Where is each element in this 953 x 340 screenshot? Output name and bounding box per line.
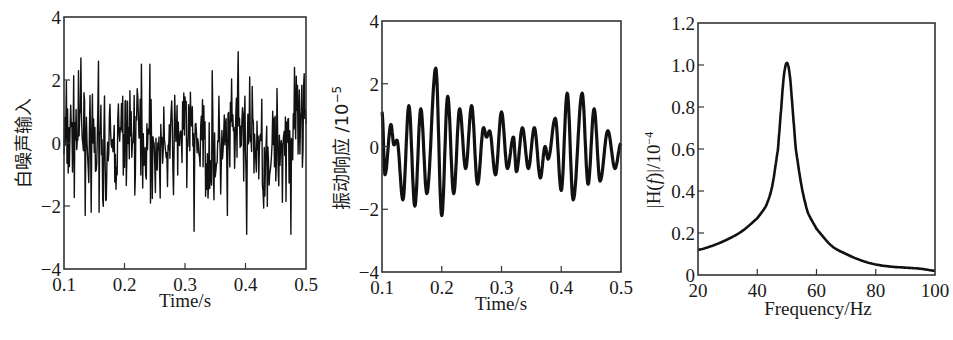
series-line	[382, 68, 621, 215]
y-axis-title: 振动响应 /10−5	[330, 86, 352, 210]
x-tick-label: 0.2	[113, 274, 137, 295]
figure-canvas: 0.10.20.30.40.5−4−2024 Time/s 白噪声输入 0.10…	[0, 0, 953, 340]
y-tick-label: 4	[52, 7, 62, 28]
y-axis-title: 白噪声输入	[13, 98, 34, 188]
y-tick-label: 0.2	[671, 223, 695, 244]
y-tick-label: 0.6	[671, 139, 695, 160]
y-axis-title: |H(f)|/10−4	[642, 132, 665, 208]
white-noise-chart: 0.10.20.30.40.5−4−2024 Time/s 白噪声输入	[13, 7, 318, 311]
y-tick-label: 0	[370, 137, 380, 158]
y-tick-label: −4	[359, 262, 380, 283]
y-tick-label: 4	[370, 11, 380, 32]
svg-text:振动响应 /10−5: 振动响应 /10−5	[330, 86, 352, 210]
vibration-response-chart: 0.10.20.30.40.5−4−2024 Time/s 振动响应 /10−5	[330, 11, 633, 314]
svg-text:|H(f)|/10−4: |H(f)|/10−4	[642, 132, 665, 208]
x-tick-label: 100	[921, 280, 950, 301]
y-tick-label: 0	[52, 133, 62, 154]
y-tick-label: −2	[41, 196, 61, 217]
x-axis-title: Time/s	[159, 290, 211, 311]
frequency-response-chart: 2040608010000.20.40.60.81.01.2 Frequency…	[642, 13, 949, 319]
y-tick-label: 2	[52, 70, 62, 91]
x-axis-title: Frequency/Hz	[764, 298, 872, 319]
y-tick-label: 0	[686, 265, 696, 286]
y-tick-label: −2	[359, 199, 379, 220]
x-tick-label: 0.4	[549, 277, 573, 298]
x-tick-label: 0.4	[234, 274, 258, 295]
series-line	[698, 63, 935, 271]
axis-ticks: 2040608010000.20.40.60.81.01.2	[671, 13, 949, 301]
y-tick-label: 0.4	[671, 181, 695, 202]
y-axis-exponent: −5	[330, 86, 344, 104]
x-axis-title: Time/s	[475, 293, 527, 314]
frequency-response-curve	[698, 63, 935, 271]
vibration-response-trace	[382, 68, 621, 215]
series-line	[64, 52, 306, 235]
x-tick-label: 0.2	[430, 277, 454, 298]
white-noise-trace	[64, 52, 306, 235]
y-axis-title-unit: )|/10	[643, 145, 665, 179]
y-axis-title-text: 振动响应 /10	[331, 104, 352, 211]
y-tick-label: 1.0	[671, 55, 695, 76]
y-tick-label: −4	[41, 259, 62, 280]
y-tick-label: 2	[370, 74, 380, 95]
x-tick-label: 0.5	[609, 277, 633, 298]
x-tick-label: 0.5	[294, 274, 318, 295]
y-tick-label: 1.2	[671, 13, 695, 34]
y-tick-label: 0.8	[671, 97, 695, 118]
y-axis-title-text: |H(	[643, 184, 665, 208]
y-axis-exponent: −4	[642, 132, 656, 145]
